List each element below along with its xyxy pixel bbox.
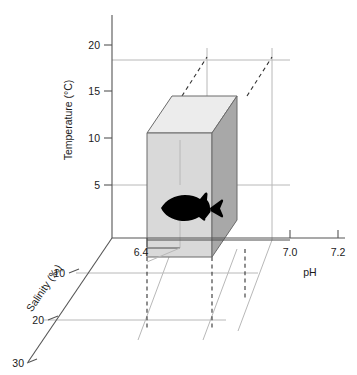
niche-diagram-figure: 20 15 10 5 Temperature (°C) 6.4 7.0 7.2 … bbox=[0, 0, 357, 375]
gridline-depth-left bbox=[138, 249, 172, 340]
projection-lines-upper bbox=[182, 57, 272, 96]
projection-lines-lower bbox=[147, 249, 245, 330]
ph-tick-label-7-0: 7.0 bbox=[283, 246, 298, 258]
gridline-depth-far-right bbox=[238, 240, 272, 331]
temperature-tick-label-20: 20 bbox=[88, 39, 100, 51]
projection-dash-top-right bbox=[247, 57, 272, 96]
niche-volume-box bbox=[147, 96, 237, 257]
salinity-tick-label-30: 30 bbox=[12, 357, 24, 369]
temperature-axis-title: Temperature (°C) bbox=[62, 80, 74, 161]
salinity-axis-title: Salinity (‰) bbox=[24, 262, 64, 314]
gridline-depth-right bbox=[203, 249, 237, 340]
temperature-tick-label-15: 15 bbox=[88, 85, 100, 97]
temperature-axis: 20 15 10 5 Temperature (°C) bbox=[62, 15, 112, 238]
salinity-tick-label-20: 20 bbox=[32, 314, 44, 326]
salinity-tick-10 bbox=[69, 269, 79, 273]
temperature-tick-label-5: 5 bbox=[94, 179, 100, 191]
projection-dash-top-left bbox=[182, 57, 207, 96]
salinity-axis: 10 20 30 Salinity (‰) bbox=[12, 238, 112, 369]
temperature-tick-label-10: 10 bbox=[88, 132, 100, 144]
ph-tick-label-7-2: 7.2 bbox=[331, 246, 346, 258]
ph-axis-title: pH bbox=[303, 266, 316, 278]
ph-tick-label-6-4: 6.4 bbox=[134, 246, 149, 258]
niche-diagram-svg: 20 15 10 5 Temperature (°C) 6.4 7.0 7.2 … bbox=[0, 0, 357, 375]
